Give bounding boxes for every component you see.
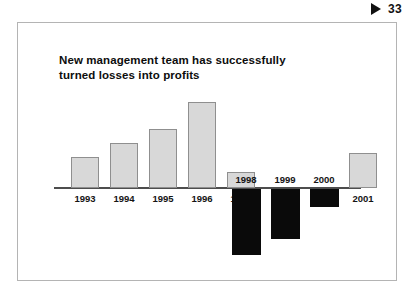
bar-1998 [232, 189, 261, 255]
bar-label-1994: 1994 [106, 194, 142, 204]
bar-1994 [110, 143, 138, 188]
bar-2000 [310, 189, 339, 207]
bar-1993 [71, 157, 99, 188]
bar-1996 [188, 102, 216, 188]
bar-1999 [271, 189, 300, 239]
bar-label-1999: 1999 [267, 175, 303, 185]
play-triangle-icon [371, 3, 381, 15]
bar-label-1996: 1996 [184, 194, 220, 204]
bar-label-2001: 2001 [345, 194, 381, 204]
bar-label-1995: 1995 [145, 194, 181, 204]
bar-chart: 1993 1994 1995 1996 1997 1998 1999 2000 … [18, 23, 398, 282]
page-number: 33 [388, 3, 402, 15]
slide-frame: New management team has successfully tur… [17, 22, 397, 281]
bar-2001 [349, 153, 377, 188]
bar-label-1998: 1998 [228, 175, 264, 185]
bar-label-2000: 2000 [306, 175, 342, 185]
bar-1995 [149, 129, 177, 188]
page-marker: 33 [371, 3, 402, 15]
bar-label-1993: 1993 [67, 194, 103, 204]
